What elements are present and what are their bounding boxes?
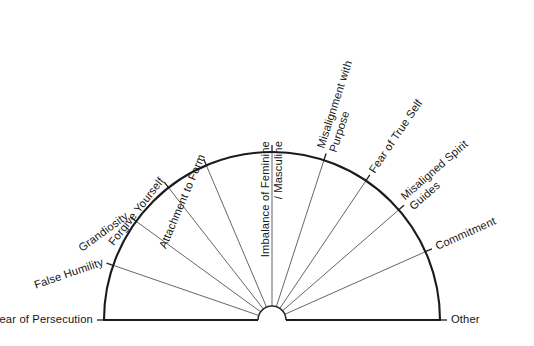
spoke-line-2 [136, 221, 261, 312]
sector-label-line: Fear of Persecution [0, 313, 93, 326]
spoke-line-1 [113, 265, 259, 315]
spoke-line-9 [285, 252, 426, 315]
sector-label-other[interactable]: Other [451, 313, 480, 326]
sector-label-line: Other [451, 313, 480, 326]
sector-label-line: / Masculine [272, 141, 285, 257]
sector-label-line: Imbalance of Feminine [259, 141, 272, 257]
sector-label-imbalance-of-feminine-masculine[interactable]: Imbalance of Feminine/ Masculine [259, 141, 285, 257]
pendulum-chart: Fear of PersecutionFalse HumilityGrandio… [0, 0, 534, 346]
spoke-line-8 [283, 210, 399, 311]
sector-label-fear-of-persecution[interactable]: Fear of Persecution [0, 313, 93, 326]
spoke-line-7 [280, 181, 366, 309]
spoke-line-4 [206, 165, 266, 307]
